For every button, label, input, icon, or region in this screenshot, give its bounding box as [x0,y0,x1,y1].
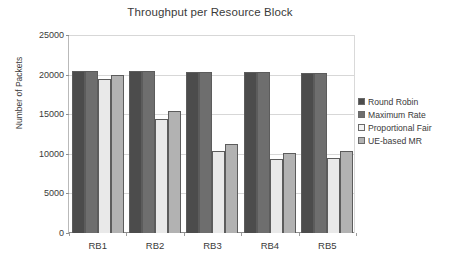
x-axis-category-label: RB1 [69,240,126,251]
legend-item-label: Round Robin [368,97,418,107]
legend-item[interactable]: Round Robin [358,95,432,108]
x-tick-mark [241,233,242,236]
y-tick-label: 5000 [44,188,64,198]
x-tick-mark [356,233,357,236]
chart-title: Throughput per Resource Block [0,6,420,18]
bar[interactable] [340,151,353,233]
bar[interactable] [155,119,168,233]
bar[interactable] [72,71,85,233]
x-tick-mark [69,233,70,236]
x-tick-mark [299,233,300,236]
bar[interactable] [212,151,225,233]
x-axis-category-label: RB3 [184,240,241,251]
legend-item-label: Maximum Rate [368,110,426,120]
bar[interactable] [327,158,340,233]
bar[interactable] [98,79,111,233]
bar[interactable] [111,75,124,233]
bar[interactable] [85,71,98,233]
x-axis-category-label: RB5 [299,240,356,251]
y-tick-label: 15000 [39,109,64,119]
x-tick-mark [184,233,185,236]
bar[interactable] [199,72,212,233]
legend-item[interactable]: UE-based MR [358,134,432,147]
legend-swatch-icon [358,98,365,105]
bar[interactable] [225,144,238,233]
legend-swatch-icon [358,124,365,131]
x-axis-category-label: RB4 [241,240,298,251]
bar[interactable] [257,72,270,233]
legend-item-label: UE-based MR [368,136,422,146]
legend-item[interactable]: Maximum Rate [358,108,432,121]
bar[interactable] [244,72,257,233]
bar[interactable] [283,153,296,233]
legend-item-label: Proportional Fair [368,123,432,133]
bar-group: RB4 [241,35,298,233]
y-axis-title: Number of Packets [14,33,24,153]
chart-container: Throughput per Resource Block Number of … [0,0,459,260]
bars-layer: RB1RB2RB3RB4RB5 [69,35,354,233]
x-axis-category-label: RB2 [126,240,183,251]
bar[interactable] [129,71,142,233]
y-tick-label: 20000 [39,70,64,80]
bar[interactable] [314,73,327,233]
x-tick-mark [126,233,127,236]
bar[interactable] [142,71,155,233]
bar-group: RB1 [69,35,126,233]
legend-item[interactable]: Proportional Fair [358,121,432,134]
bar-group: RB2 [126,35,183,233]
legend-swatch-icon [358,111,365,118]
y-tick-label: 25000 [39,30,64,40]
legend: Round RobinMaximum RateProportional Fair… [358,95,432,147]
legend-swatch-icon [358,137,365,144]
bar[interactable] [270,159,283,233]
plot-area: 0500010000150002000025000 RB1RB2RB3RB4RB… [68,35,355,233]
bar[interactable] [186,72,199,233]
bar-group: RB3 [184,35,241,233]
bar[interactable] [301,73,314,233]
bar[interactable] [168,111,181,233]
bar-group: RB5 [299,35,356,233]
y-tick-label: 0 [59,228,64,238]
y-tick-label: 10000 [39,149,64,159]
